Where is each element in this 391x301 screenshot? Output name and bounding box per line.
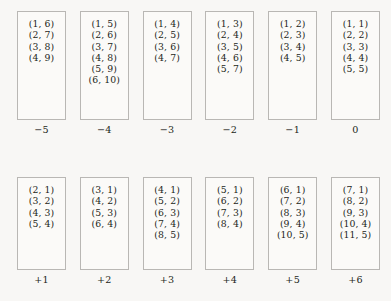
ordered-pair: (2, 6) [81,29,128,40]
class-cell-0: (1, 1)(2, 2)(3, 3)(4, 4)(5, 5)0 [331,11,380,120]
ordered-pair: (7, 4) [144,218,191,229]
ordered-pair: (7, 1) [332,184,379,195]
ordered-pair: (5, 1) [206,184,253,195]
class-cell-minus2: (1, 3)(2, 4)(3, 5)(4, 6)(5, 7)−2 [205,11,254,120]
ordered-pair: (2, 7) [18,29,65,40]
ordered-pair: (8, 2) [332,195,379,206]
pair-box: (2, 1)(3, 2)(4, 3)(5, 4) [17,177,66,270]
pair-box: (4, 1)(5, 2)(6, 3)(7, 4)(8, 5) [143,177,192,270]
ordered-pair: (5, 9) [81,63,128,74]
class-label: +2 [80,274,129,285]
class-cell-minus1: (1, 2)(2, 3)(3, 4)(4, 5)−1 [268,11,317,120]
ordered-pair: (4, 6) [206,52,253,63]
ordered-pair: (4, 2) [81,195,128,206]
ordered-pair: (1, 4) [144,18,191,29]
ordered-pair: (2, 3) [269,29,316,40]
class-cell-minus3: (1, 4)(2, 5)(3, 6)(4, 7)−3 [143,11,192,120]
ordered-pair: (3, 5) [206,41,253,52]
class-label: +3 [143,274,192,285]
ordered-pair: (1, 5) [81,18,128,29]
class-cell-plus5: (6, 1)(7, 2)(8, 3)(9, 4)(10, 5)+5 [268,177,317,270]
ordered-pair: (6, 10) [81,74,128,85]
ordered-pair: (1, 1) [332,18,379,29]
ordered-pair: (5, 5) [332,63,379,74]
class-cell-plus4: (5, 1)(6, 2)(7, 3)(8, 4)+4 [205,177,254,270]
class-label: +1 [17,274,66,285]
ordered-pair: (2, 1) [18,184,65,195]
ordered-pair: (2, 2) [332,29,379,40]
ordered-pair: (5, 7) [206,63,253,74]
ordered-pair: (6, 1) [269,184,316,195]
class-cell-plus6: (7, 1)(8, 2)(9, 3)(10, 4)(11, 5)+6 [331,177,380,270]
class-cell-minus4: (1, 5)(2, 6)(3, 7)(4, 8)(5, 9)(6, 10)−4 [80,11,129,120]
pair-box: (1, 5)(2, 6)(3, 7)(4, 8)(5, 9)(6, 10) [80,11,129,120]
pair-box: (1, 6)(2, 7)(3, 8)(4, 9) [17,11,66,120]
ordered-pair: (4, 5) [269,52,316,63]
ordered-pair: (2, 5) [144,29,191,40]
ordered-pair: (1, 6) [18,18,65,29]
class-cell-plus1: (2, 1)(3, 2)(4, 3)(5, 4)+1 [17,177,66,270]
class-cell-plus2: (3, 1)(4, 2)(5, 3)(6, 4)+2 [80,177,129,270]
ordered-pair: (4, 7) [144,52,191,63]
ordered-pair: (3, 6) [144,41,191,52]
ordered-pair: (3, 4) [269,41,316,52]
ordered-pair: (3, 8) [18,41,65,52]
ordered-pair: (9, 4) [269,218,316,229]
class-label: −2 [205,124,254,135]
ordered-pair: (7, 3) [206,207,253,218]
ordered-pair: (6, 4) [81,218,128,229]
class-label: +4 [205,274,254,285]
class-label: −5 [17,124,66,135]
ordered-pair: (5, 4) [18,218,65,229]
class-cell-minus5: (1, 6)(2, 7)(3, 8)(4, 9)−5 [17,11,66,120]
pair-box: (1, 1)(2, 2)(3, 3)(4, 4)(5, 5) [331,11,380,120]
pair-box: (5, 1)(6, 2)(7, 3)(8, 4) [205,177,254,270]
class-label: +6 [331,274,380,285]
pair-box: (1, 4)(2, 5)(3, 6)(4, 7) [143,11,192,120]
class-label: +5 [268,274,317,285]
pair-box: (7, 1)(8, 2)(9, 3)(10, 4)(11, 5) [331,177,380,270]
ordered-pair: (2, 4) [206,29,253,40]
class-label: −4 [80,124,129,135]
class-label: 0 [331,124,380,135]
ordered-pair: (8, 4) [206,218,253,229]
ordered-pair: (4, 9) [18,52,65,63]
ordered-pair: (9, 3) [332,207,379,218]
ordered-pair: (3, 7) [81,41,128,52]
pair-box: (1, 3)(2, 4)(3, 5)(4, 6)(5, 7) [205,11,254,120]
ordered-pair: (6, 2) [206,195,253,206]
ordered-pair: (8, 5) [144,229,191,240]
class-label: −3 [143,124,192,135]
ordered-pair: (7, 2) [269,195,316,206]
equivalence-class-figure: (1, 6)(2, 7)(3, 8)(4, 9)−5(1, 5)(2, 6)(3… [0,0,391,301]
ordered-pair: (4, 4) [332,52,379,63]
ordered-pair: (5, 3) [81,207,128,218]
class-label: −1 [268,124,317,135]
ordered-pair: (4, 8) [81,52,128,63]
ordered-pair: (11, 5) [332,229,379,240]
pair-box: (3, 1)(4, 2)(5, 3)(6, 4) [80,177,129,270]
ordered-pair: (3, 1) [81,184,128,195]
ordered-pair: (8, 3) [269,207,316,218]
ordered-pair: (10, 4) [332,218,379,229]
pair-box: (6, 1)(7, 2)(8, 3)(9, 4)(10, 5) [268,177,317,270]
ordered-pair: (3, 3) [332,41,379,52]
pair-box: (1, 2)(2, 3)(3, 4)(4, 5) [268,11,317,120]
ordered-pair: (4, 1) [144,184,191,195]
ordered-pair: (1, 3) [206,18,253,29]
ordered-pair: (6, 3) [144,207,191,218]
class-cell-plus3: (4, 1)(5, 2)(6, 3)(7, 4)(8, 5)+3 [143,177,192,270]
ordered-pair: (5, 2) [144,195,191,206]
ordered-pair: (1, 2) [269,18,316,29]
ordered-pair: (4, 3) [18,207,65,218]
ordered-pair: (3, 2) [18,195,65,206]
ordered-pair: (10, 5) [269,229,316,240]
